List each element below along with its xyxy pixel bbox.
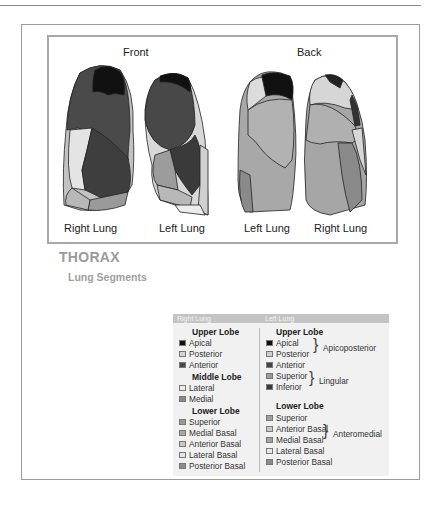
- legend-item: Medial Basal: [179, 428, 237, 438]
- legend-item: Anterior Basal: [179, 439, 241, 449]
- back-right-lung: [305, 75, 367, 215]
- lingular-label: Lingular: [319, 376, 349, 386]
- back-label: Back: [297, 46, 321, 58]
- brace-icon: }: [309, 370, 314, 386]
- swatch-icon: [266, 384, 273, 390]
- legend-item: Lateral Basal: [179, 450, 237, 460]
- section-subtitle: Lung Segments: [68, 271, 147, 283]
- legend-item: Posterior Basal: [266, 457, 332, 467]
- legend-item: Superior: [179, 417, 220, 427]
- swatch-icon: [179, 419, 186, 425]
- legend-item: Posterior Basal: [179, 461, 245, 471]
- lung-label-front-right: Right Lung: [64, 222, 117, 234]
- legend-header: Right Lung Left Lung: [173, 314, 389, 323]
- swatch-icon: [266, 351, 273, 357]
- legend-item: Anterior: [266, 360, 305, 370]
- lung-label-back-right: Right Lung: [314, 222, 367, 234]
- swatch-icon: [179, 385, 186, 391]
- back-left-lung: [238, 72, 296, 212]
- legend-item: Medial Basal: [266, 435, 324, 445]
- left-lower-lobe-heading: Lower Lobe: [276, 401, 324, 411]
- swatch-icon: [266, 426, 273, 432]
- swatch-icon: [179, 441, 186, 447]
- swatch-icon: [179, 351, 186, 357]
- apicoposterior-label: Apicoposterior: [323, 343, 376, 353]
- right-middle-lobe-heading: Middle Lobe: [192, 372, 242, 382]
- legend-item: Anterior: [179, 360, 218, 370]
- legend-item: Apical: [266, 338, 299, 348]
- anteromedial-label: Anteromedial: [333, 429, 382, 439]
- swatch-icon: [266, 362, 273, 368]
- swatch-icon: [266, 373, 273, 379]
- legend-header-left-lung: Left Lung: [265, 314, 294, 323]
- section-title: THORAX: [59, 249, 120, 265]
- swatch-icon: [266, 459, 273, 465]
- legend-item: Medial: [179, 394, 213, 404]
- swatch-icon: [266, 448, 273, 454]
- right-upper-lobe-heading: Upper Lobe: [192, 327, 239, 337]
- swatch-icon: [179, 396, 186, 402]
- legend-item: Lateral Basal: [266, 446, 324, 456]
- swatch-icon: [179, 463, 186, 469]
- legend-item: Anterior Basal: [266, 424, 328, 434]
- legend-item: Apical: [179, 338, 212, 348]
- front-label: Front: [123, 46, 149, 58]
- lung-label-back-left: Left Lung: [244, 222, 290, 234]
- legend-item: Posterior: [179, 349, 222, 359]
- front-left-lung: [145, 73, 208, 215]
- legend-item: Superior: [266, 371, 307, 381]
- brace-icon: }: [313, 337, 318, 353]
- swatch-icon: [179, 362, 186, 368]
- brace-icon: }: [323, 423, 328, 439]
- lung-label-front-left: Left Lung: [159, 222, 205, 234]
- legend: Right Lung Left Lung Upper Lobe Apical P…: [173, 314, 389, 476]
- swatch-icon: [179, 340, 186, 346]
- swatch-icon: [179, 430, 186, 436]
- legend-divider: [259, 328, 260, 472]
- legend-header-right-lung: Right Lung: [177, 314, 211, 323]
- swatch-icon: [266, 437, 273, 443]
- legend-item: Posterior: [266, 349, 309, 359]
- swatch-icon: [266, 340, 273, 346]
- legend-item: Lateral: [179, 383, 214, 393]
- front-right-lung: [63, 66, 133, 211]
- legend-item: Inferior: [266, 382, 302, 392]
- swatch-icon: [179, 452, 186, 458]
- swatch-icon: [266, 415, 273, 421]
- legend-item: Superior: [266, 413, 307, 423]
- right-lower-lobe-heading: Lower Lobe: [192, 406, 240, 416]
